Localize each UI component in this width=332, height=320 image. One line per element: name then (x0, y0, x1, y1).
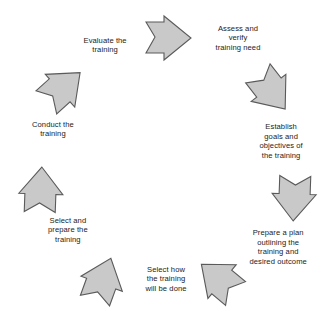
step-label-select-and-prepare-the-training: Select and prepare the training (48, 216, 88, 245)
step-arrow-prepare-a-plan (271, 175, 317, 222)
step-label-establish-goals-and-objectives: Establish goals and objectives of the tr… (260, 122, 303, 160)
step-label-evaluate-the-training: Evaluate the training (84, 36, 127, 55)
step-arrow-establish-goals-and-objectives (240, 60, 302, 123)
step-arrow-select-how-training-will-be-done (187, 247, 250, 310)
step-label-assess-and-verify-training-need: Assess and verify training need (216, 24, 261, 53)
training-cycle-diagram: Assess and verify training need Establis… (0, 0, 332, 320)
step-label-select-how-training-will-be-done: Select how the training will be done (146, 265, 187, 294)
step-arrow-assess-and-verify-training-need (146, 16, 191, 60)
step-label-conduct-the-training: Conduct the training (32, 120, 74, 139)
step-arrow-conduct-the-training (18, 166, 64, 213)
step-arrow-evaluate-the-training (32, 56, 95, 119)
step-arrow-select-and-prepare-the-training (75, 251, 132, 308)
step-label-prepare-a-plan: Prepare a plan outlining the training an… (250, 228, 307, 266)
